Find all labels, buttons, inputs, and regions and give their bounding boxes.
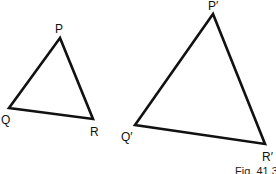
vertex-label-p-prime: P′ — [208, 0, 219, 13]
vertex-label-r-prime: R′ — [262, 150, 274, 164]
vertex-label-q-prime: Q′ — [121, 130, 133, 144]
figure-canvas: P Q R P′ Q′ R′ Fig. 41.3 — [0, 0, 276, 174]
figure-caption: Fig. 41.3 — [235, 165, 276, 174]
triangle-pqr — [9, 38, 93, 119]
vertex-label-r: R — [90, 125, 99, 139]
vertex-label-p: P — [55, 22, 63, 36]
triangle-pqr-prime — [135, 14, 265, 144]
vertex-label-q: Q — [1, 113, 10, 127]
